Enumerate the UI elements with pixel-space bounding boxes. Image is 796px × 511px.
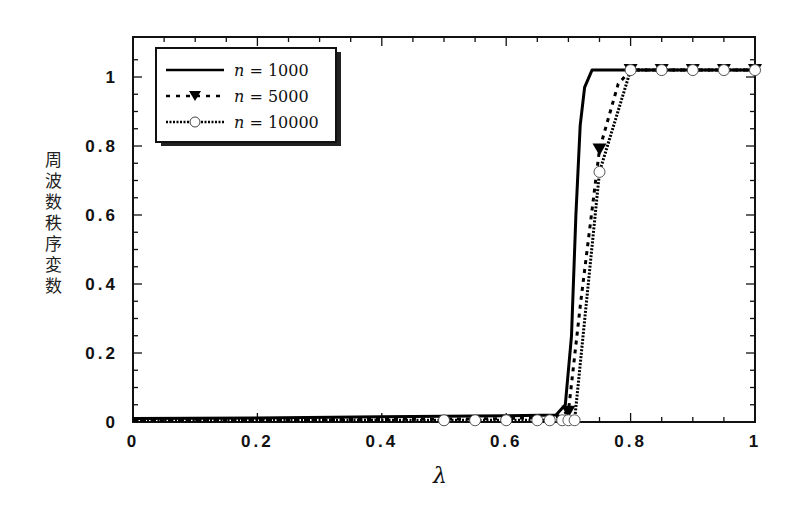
- circle-open-marker: [656, 65, 667, 76]
- y-tick-label: 0.2: [85, 344, 118, 363]
- y-tick-label: 0: [106, 413, 118, 432]
- triangle-down-marker: [593, 143, 607, 155]
- circle-open-icon: [190, 117, 200, 127]
- x-tick-label: 0: [127, 432, 139, 451]
- x-tick-label: 1: [749, 432, 761, 451]
- circle-open-marker: [501, 415, 512, 426]
- legend-label-n5000: n = 5000: [234, 87, 309, 106]
- circle-open-marker: [569, 415, 580, 426]
- circle-open-marker: [750, 65, 761, 76]
- y-axis-label: 周波数秩序変数: [45, 150, 62, 296]
- x-tick-labels: 00.20.40.60.81: [127, 432, 761, 451]
- y-label-char: 数: [45, 276, 62, 296]
- circle-open-marker: [532, 415, 543, 426]
- x-tick-label: 0.6: [490, 432, 523, 451]
- y-label-char: 周: [45, 150, 62, 170]
- y-tick-label: 1: [106, 68, 118, 87]
- legend-label-n1000: n = 1000: [234, 61, 309, 80]
- y-tick-label: 0.8: [85, 137, 118, 156]
- circle-open-marker: [594, 166, 605, 177]
- y-tick-labels: 00.20.40.60.81: [85, 68, 118, 432]
- circle-open-marker: [625, 65, 636, 76]
- legend-label-n10000: n = 10000: [234, 113, 319, 132]
- y-tick-label: 0.4: [85, 275, 118, 294]
- x-axis-label: λ: [432, 463, 447, 488]
- x-tick-label: 0.8: [614, 432, 647, 451]
- y-label-char: 数: [45, 192, 62, 212]
- circle-open-marker: [439, 415, 450, 426]
- circle-open-marker: [544, 415, 555, 426]
- y-label-char: 秩: [45, 213, 62, 233]
- y-tick-label: 0.6: [85, 206, 118, 225]
- y-label-char: 変: [45, 255, 62, 275]
- circle-open-marker: [687, 65, 698, 76]
- circle-open-marker: [718, 65, 729, 76]
- chart: 00.20.40.60.81 00.20.40.60.81 周波数秩序変数 λ …: [0, 0, 796, 511]
- x-tick-label: 0.2: [241, 432, 274, 451]
- x-tick-label: 0.4: [365, 432, 398, 451]
- circle-open-marker: [470, 415, 481, 426]
- legend: n = 1000 n = 5000 n = 10000: [156, 48, 341, 146]
- y-label-char: 序: [45, 234, 62, 254]
- y-label-char: 波: [45, 171, 62, 191]
